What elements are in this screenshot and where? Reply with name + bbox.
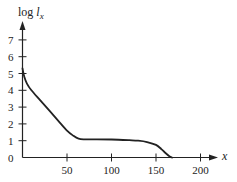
y-tick-label: 0: [8, 152, 14, 164]
y-tick-label: 1: [8, 135, 14, 147]
x-axis-arrow-icon: [209, 155, 218, 161]
x-tick-label: 100: [103, 164, 120, 176]
data-line: [23, 68, 173, 157]
y-tick-label: 4: [8, 84, 14, 96]
y-tick-labels: 01234567: [8, 34, 27, 164]
chart: 01234567 50100150200 log lx x: [0, 0, 237, 182]
y-axis: [20, 21, 26, 158]
y-tick-label: 3: [8, 101, 14, 113]
x-tick-label: 150: [148, 164, 165, 176]
y-axis-title: log lx: [18, 5, 44, 21]
y-tick-label: 2: [8, 118, 14, 130]
x-tick-labels: 50100150200: [62, 154, 210, 176]
y-tick-label: 5: [8, 68, 14, 80]
x-axis: [23, 155, 219, 161]
y-axis-arrow-icon: [20, 21, 26, 30]
y-tick-label: 6: [8, 51, 14, 63]
y-tick-label: 7: [8, 34, 14, 46]
x-tick-label: 200: [192, 164, 209, 176]
x-tick-label: 50: [62, 164, 74, 176]
x-axis-title: x: [221, 149, 228, 163]
